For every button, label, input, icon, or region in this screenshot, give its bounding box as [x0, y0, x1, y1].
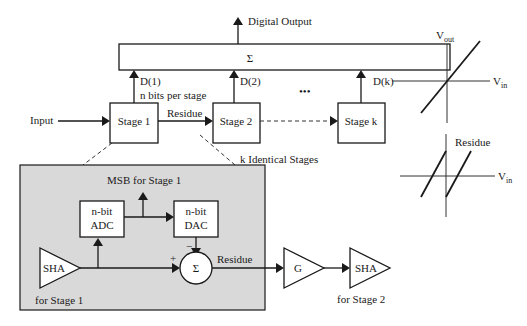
sha-2-label: SHA [355, 262, 377, 274]
d1-label: D(1) [140, 75, 161, 88]
adc-line1: n-bit [92, 205, 113, 217]
digital-output-arrow [233, 17, 243, 44]
input-arrow [58, 116, 110, 126]
vin-label-1: Vin [493, 75, 507, 90]
detail-residue-label: Residue [217, 253, 253, 265]
stage-2-label: Stage 2 [220, 115, 253, 127]
gain-to-sha2-arrow [324, 263, 350, 273]
dk-label: D(k) [373, 75, 394, 88]
d1-arrow [129, 70, 139, 103]
vin-label-2: Vin [498, 170, 512, 185]
stage-detail-panel [20, 165, 265, 310]
dac-line2: DAC [184, 219, 207, 231]
pipeline-adc-diagram: Digital Output Σ D(1) n bits per stage D… [0, 0, 527, 326]
adc-line2: ADC [90, 219, 113, 231]
sha-2-note: for Stage 2 [337, 293, 385, 305]
input-label: Input [30, 114, 53, 126]
summation-symbol: Σ [247, 52, 253, 64]
gain-amplifier [284, 248, 324, 288]
zoom-line-left [83, 143, 112, 165]
msb-label: MSB for Stage 1 [107, 174, 181, 186]
d2-label: D(2) [240, 75, 261, 88]
plus-sign: + [170, 252, 176, 264]
sha-1-note: for Stage 1 [35, 294, 83, 306]
dk-arrow [356, 70, 366, 103]
stage-1-label: Stage 1 [118, 115, 151, 127]
k-identical-stages-label: k Identical Stages [240, 153, 318, 165]
sum-symbol: Σ [193, 262, 199, 274]
residue-label: Residue [167, 107, 203, 119]
summation-block [119, 44, 450, 70]
gain-label: G [294, 262, 302, 274]
ellipsis: ••• [299, 85, 311, 97]
digital-output-label: Digital Output [248, 15, 312, 27]
sha-1-label: SHA [43, 262, 65, 274]
d2-arrow [229, 70, 239, 103]
minus-sign: − [186, 240, 192, 252]
dashed-arrow-to-stage-k [260, 116, 338, 126]
residue-plot-label: Residue [455, 136, 491, 148]
vout-label: Vout [436, 29, 455, 44]
dac-line1: n-bit [186, 205, 207, 217]
stage-k-label: Stage k [345, 115, 378, 127]
bits-per-stage-label: n bits per stage [140, 89, 206, 101]
